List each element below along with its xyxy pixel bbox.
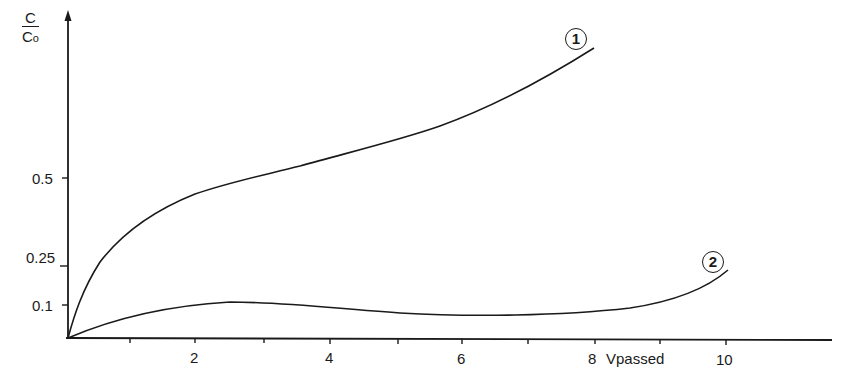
y-label-numerator: C xyxy=(22,10,39,27)
x-tick-label-2: 2 xyxy=(190,350,198,365)
x-tick-label-8: 8 xyxy=(588,351,596,366)
y-tick-label-0.25: 0.25 xyxy=(26,250,55,265)
y-axis-arrow-icon xyxy=(65,10,72,21)
x-tick-label-10: 10 xyxy=(716,352,733,367)
series-1-label: 1 xyxy=(565,28,587,50)
y-axis-label: C Co xyxy=(22,10,39,44)
y-ticks xyxy=(60,178,68,305)
y-tick-label-0.5: 0.5 xyxy=(32,171,53,186)
y-label-denominator-sub: o xyxy=(33,32,39,44)
x-tick-label-6: 6 xyxy=(457,351,465,366)
series-2-curve xyxy=(68,270,728,338)
y-label-denominator: Co xyxy=(22,27,39,44)
y-label-denominator-base: C xyxy=(22,28,33,45)
series-2-label-text: 2 xyxy=(709,253,717,270)
series-2-label: 2 xyxy=(702,251,724,273)
x-axis xyxy=(66,338,832,340)
series-1-label-text: 1 xyxy=(572,30,580,47)
series-1-curve xyxy=(68,48,594,338)
chart-canvas xyxy=(0,0,852,384)
x-axis-label: Vpassed xyxy=(606,351,664,366)
y-tick-label-0.1: 0.1 xyxy=(32,298,53,313)
x-tick-label-4: 4 xyxy=(325,350,333,365)
